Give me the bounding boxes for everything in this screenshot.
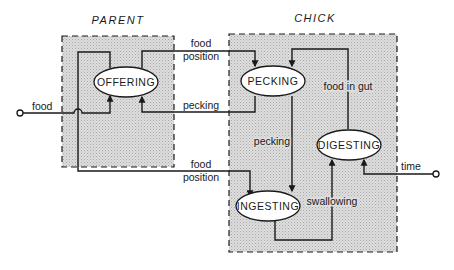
label-food-position-bottom-1: food [191, 158, 212, 170]
food-input-terminal [17, 110, 23, 116]
label-food-in-gut: food in gut [323, 80, 372, 92]
digesting-label: DIGESTING [318, 139, 380, 151]
state-offering: OFFERING [94, 67, 158, 97]
label-food-input: food [32, 100, 53, 112]
label-pecking-inner: pecking [254, 135, 290, 147]
time-input-terminal [433, 171, 439, 177]
state-diagram: PARENT CHICK OFFERING PECKING [0, 0, 454, 270]
label-swallowing: swallowing [307, 195, 358, 207]
pecking-label: PECKING [248, 75, 299, 87]
state-digesting: DIGESTING [317, 130, 381, 160]
label-food-position-top-2: position [183, 50, 219, 62]
parent-title: PARENT [92, 14, 145, 26]
label-food-position-top-1: food [191, 37, 212, 49]
state-pecking: PECKING [241, 66, 305, 96]
offering-label: OFFERING [97, 76, 155, 88]
label-time-input: time [401, 160, 421, 172]
label-food-position-bottom-2: position [183, 171, 219, 183]
ingesting-label: INGESTING [237, 200, 299, 212]
label-pecking-top: pecking [183, 99, 219, 111]
state-ingesting: INGESTING [236, 191, 300, 221]
chick-title: CHICK [294, 12, 336, 24]
parent-box [62, 36, 174, 167]
